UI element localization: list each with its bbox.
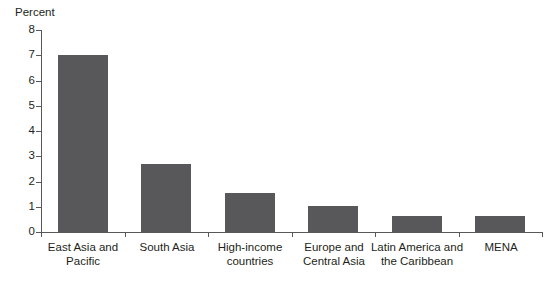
y-axis-title: Percent xyxy=(15,5,55,19)
y-tick-label: 0 xyxy=(29,224,35,238)
y-tick-mark xyxy=(36,156,41,157)
bar xyxy=(308,206,358,233)
x-tick-mark xyxy=(375,232,376,237)
bar xyxy=(475,216,525,232)
y-tick-label: 5 xyxy=(29,98,35,112)
y-tick-label: 3 xyxy=(29,148,35,162)
bar-chart: Percent 012345678 East Asia andPacificSo… xyxy=(0,0,552,283)
y-tick-mark xyxy=(36,131,41,132)
bar xyxy=(392,216,442,232)
y-tick-label: 1 xyxy=(29,199,35,213)
bar xyxy=(225,193,275,232)
x-tick-mark xyxy=(125,232,126,237)
x-tick-mark xyxy=(292,232,293,237)
y-tick-mark xyxy=(36,106,41,107)
plot-area: 012345678 xyxy=(41,30,542,232)
x-tick-mark xyxy=(208,232,209,237)
x-axis-label-line: Pacific xyxy=(31,254,135,268)
x-axis-label: MENA xyxy=(449,240,552,254)
y-axis-line xyxy=(41,30,42,232)
bar xyxy=(141,164,191,232)
x-axis-label-line: MENA xyxy=(449,240,552,254)
bar xyxy=(58,55,108,232)
y-tick-mark xyxy=(36,55,41,56)
y-tick-label: 8 xyxy=(29,22,35,36)
y-tick-label: 6 xyxy=(29,73,35,87)
x-tick-mark xyxy=(459,232,460,237)
x-tick-mark xyxy=(542,232,543,237)
x-axis-label-line: the Caribbean xyxy=(365,254,469,268)
y-tick-label: 4 xyxy=(29,123,35,137)
y-tick-mark xyxy=(36,182,41,183)
y-tick-label: 7 xyxy=(29,47,35,61)
y-tick-mark xyxy=(36,30,41,31)
y-tick-mark xyxy=(36,81,41,82)
y-tick-mark xyxy=(36,207,41,208)
x-tick-mark xyxy=(41,232,42,237)
x-axis-labels: East Asia andPacificSouth AsiaHigh-incom… xyxy=(41,240,542,276)
y-tick-label: 2 xyxy=(29,174,35,188)
